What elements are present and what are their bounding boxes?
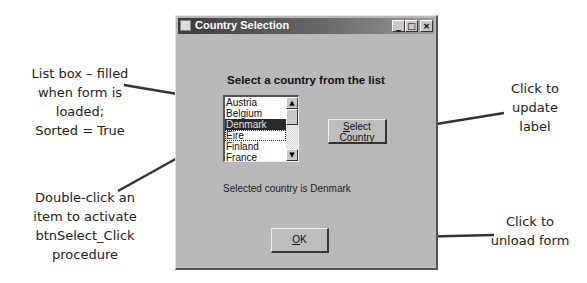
annotation-line: update — [495, 98, 575, 117]
button-label-part: K — [300, 234, 307, 245]
minimize-button[interactable]: _ — [392, 20, 405, 32]
selected-country-label: Selected country is Denmark — [223, 183, 351, 194]
scroll-thumb[interactable] — [286, 109, 298, 125]
annotation-line: Click to — [480, 212, 580, 231]
annotation-ok: Click to unload form — [480, 212, 580, 250]
accelerator-key: S — [343, 121, 350, 132]
ok-button[interactable]: OK — [271, 228, 329, 253]
button-label-part: elect — [350, 121, 371, 132]
annotation-line: Click to — [495, 79, 575, 98]
listbox-scrollbar[interactable]: ▲ ▼ — [286, 97, 298, 161]
list-item-selected[interactable]: Denmark — [225, 119, 286, 130]
annotation-line: loaded; — [10, 102, 150, 121]
form-heading: Select a country from the list — [176, 74, 436, 86]
window-title: Country Selection — [195, 19, 289, 31]
maximize-button[interactable]: □ — [405, 20, 418, 32]
select-button-line1: Select — [329, 121, 385, 132]
list-item[interactable]: Austria — [225, 97, 286, 108]
scroll-down-arrow-icon[interactable]: ▼ — [286, 149, 298, 161]
country-listbox[interactable]: Austria Belgium Denmark Eire Finland Fra… — [223, 95, 299, 162]
annotation-line: unload form — [480, 231, 580, 250]
annotation-line: Double-click an — [20, 188, 150, 207]
annotation-listbox: List box – filled when form is loaded; S… — [10, 64, 150, 140]
annotation-line: procedure — [20, 245, 150, 264]
country-selection-window: Country Selection _ □ × Select a country… — [175, 15, 438, 270]
list-item[interactable]: Eire — [225, 130, 286, 141]
app-icon[interactable] — [180, 20, 191, 31]
list-item[interactable]: Belgium — [225, 108, 286, 119]
annotation-line: label — [495, 117, 575, 136]
annotation-line: item to activate — [20, 207, 150, 226]
close-button[interactable]: × — [420, 20, 433, 32]
select-country-button[interactable]: Select Country — [328, 119, 387, 144]
annotation-line: List box – filled — [10, 64, 150, 83]
annotation-line: when form is — [10, 83, 150, 102]
title-bar[interactable]: Country Selection _ □ × — [178, 18, 434, 34]
accelerator-key: O — [292, 234, 300, 245]
select-button-line2: Country — [329, 132, 385, 143]
annotation-doubleclick: Double-click an item to activate btnSele… — [20, 188, 150, 264]
annotation-select: Click to update label — [495, 79, 575, 136]
scroll-up-arrow-icon[interactable]: ▲ — [286, 97, 298, 109]
list-item[interactable]: France — [225, 152, 286, 162]
annotation-line: btnSelect_Click — [20, 226, 150, 245]
list-item[interactable]: Finland — [225, 141, 286, 152]
annotation-line: Sorted = True — [10, 121, 150, 140]
